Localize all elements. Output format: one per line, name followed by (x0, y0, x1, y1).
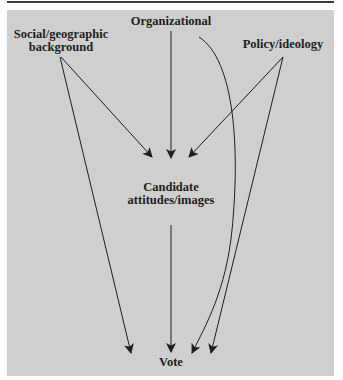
edge-social-to-candidate (61, 57, 152, 157)
node-social-line2: background (14, 41, 108, 54)
node-candidate-attitudes-images: Candidate attitudes/images (128, 181, 215, 207)
node-vote-label: Vote (159, 355, 183, 369)
node-organizational: Organizational (131, 15, 212, 28)
edge-policy-to-candidate (189, 57, 283, 157)
node-organizational-label: Organizational (131, 14, 212, 28)
node-social-geographic-background: Social/geographic background (14, 28, 108, 54)
node-vote: Vote (159, 356, 183, 369)
node-candidate-line2: attitudes/images (128, 194, 215, 207)
edge-social-to-vote (60, 57, 131, 353)
node-policy-ideology: Policy/ideology (243, 38, 324, 51)
node-policy-label: Policy/ideology (243, 37, 324, 51)
edge-policy-to-vote (211, 57, 283, 353)
